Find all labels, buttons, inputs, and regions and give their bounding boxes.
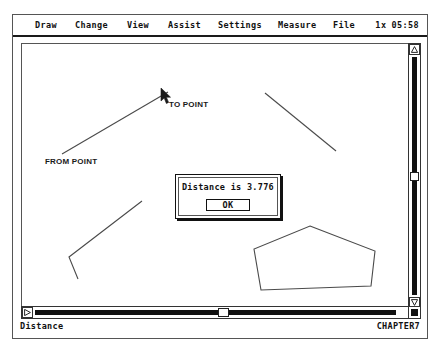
canvas-label-from-point: FROM POINT (45, 157, 97, 166)
canvas-label-to-point: TO POINT (169, 100, 208, 109)
zoom-factor-label: 1x (375, 20, 386, 30)
status-indicators: 1x05:58 (375, 20, 419, 30)
horizontal-scroll-thumb[interactable] (218, 308, 229, 317)
application-window: Draw Change View Assist Settings Measure… (0, 0, 441, 357)
measure-line (62, 92, 168, 154)
menu-item-measure[interactable]: Measure (278, 20, 317, 30)
vertical-scroll-thumb[interactable] (410, 172, 419, 181)
menu-item-file[interactable]: File (333, 20, 355, 30)
mouse-cursor-icon (160, 88, 172, 104)
distance-dialog: Distance is 3.776 OK (175, 174, 281, 219)
dialog-message-text: Distance is 3.776 (176, 182, 280, 192)
triangle-right-icon (24, 309, 31, 316)
triangle-down-icon (411, 299, 418, 306)
menu-item-assist[interactable]: Assist (168, 20, 201, 30)
dialog-ok-button[interactable]: OK (206, 199, 250, 211)
menu-item-settings[interactable]: Settings (218, 20, 262, 30)
horizontal-scroll-track[interactable] (35, 310, 396, 315)
menu-item-change[interactable]: Change (75, 20, 108, 30)
menu-item-draw[interactable]: Draw (35, 20, 57, 30)
free-line (265, 93, 336, 151)
menu-bar: Draw Change View Assist Settings Measure… (13, 15, 427, 37)
clock-label: 05:58 (391, 20, 419, 30)
status-bar: Distance CHAPTER7 (19, 321, 421, 334)
scroll-up-button[interactable] (409, 44, 420, 55)
status-command-label: Distance (20, 321, 63, 332)
grip-square-icon (411, 309, 418, 316)
menu-item-view[interactable]: View (127, 20, 149, 30)
window-frame: Draw Change View Assist Settings Measure… (12, 14, 428, 339)
scroll-right-button[interactable] (22, 307, 33, 318)
chevron-polyline (69, 201, 142, 279)
resize-grip[interactable] (408, 306, 421, 319)
vertical-scrollbar[interactable] (408, 43, 421, 309)
pentagon-shape (254, 226, 375, 290)
horizontal-scrollbar[interactable] (21, 306, 410, 319)
status-document-label: CHAPTER7 (377, 321, 420, 332)
triangle-up-icon (411, 46, 418, 53)
